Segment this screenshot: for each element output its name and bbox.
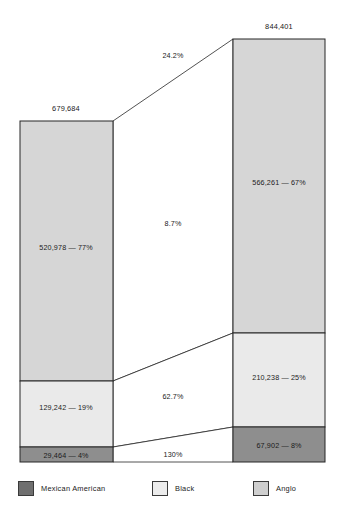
legend-swatch-black-icon xyxy=(152,481,168,496)
left-bar-segment-black xyxy=(20,381,113,447)
right-bar-label-anglo: 566,261 — 67% xyxy=(252,178,306,187)
right-bar-total-label: 844,401 xyxy=(265,22,293,31)
legend-item-black: Black xyxy=(152,481,194,496)
legend-label-anglo: Anglo xyxy=(276,484,296,493)
left-bar-label-anglo: 520,978 — 77% xyxy=(39,243,93,252)
legend-label-mexican-american: Mexican American xyxy=(41,484,105,493)
right-bar-label-black: 210,238 — 25% xyxy=(252,373,306,382)
population-change-chart: 679,684 844,401 520,978 — 77% 129,242 — … xyxy=(0,0,345,521)
connector-band-anglo xyxy=(113,39,233,381)
legend-swatch-anglo-icon xyxy=(253,481,269,496)
left-bar-total-label: 679,684 xyxy=(52,104,80,113)
legend-swatch-mexican-american-icon xyxy=(18,481,34,496)
connector-label-mexican-american-growth: 130% xyxy=(164,450,183,459)
left-bar-label-black: 129,242 — 19% xyxy=(39,403,93,412)
chart-legend: Mexican American Black Anglo xyxy=(0,481,345,505)
legend-label-black: Black xyxy=(175,484,194,493)
connector-label-total-growth: 24.2% xyxy=(162,51,183,60)
legend-item-mexican-american: Mexican American xyxy=(18,481,105,496)
legend-item-anglo: Anglo xyxy=(253,481,296,496)
right-bar-label-mexican-american: 67,902 — 8% xyxy=(256,441,301,450)
connector-label-black-growth: 62.7% xyxy=(162,392,183,401)
connector-label-anglo-growth: 8.7% xyxy=(165,219,182,228)
left-bar-label-mexican-american: 29,464 — 4% xyxy=(43,451,88,460)
